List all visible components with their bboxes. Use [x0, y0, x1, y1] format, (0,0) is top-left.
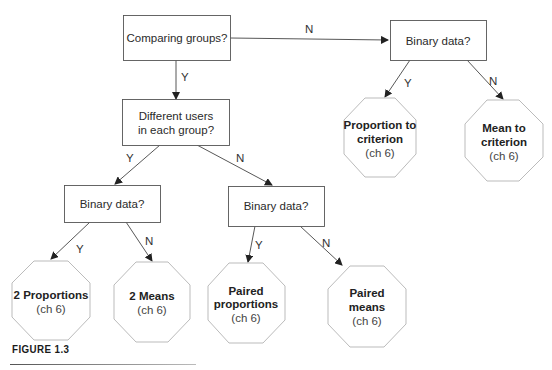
decision-binary-data-left: Binary data?	[65, 186, 161, 223]
decision-label: Binary data?	[80, 198, 145, 210]
decision-label-line2: in each group?	[138, 124, 214, 136]
outcome-chapter: (ch 6)	[36, 303, 66, 315]
edge-label-y: Y	[181, 71, 189, 83]
outcome-label: Mean to	[482, 122, 525, 134]
edge-different-to-binary-mid	[197, 145, 272, 185]
outcome-label: proportions	[214, 298, 279, 310]
outcome-proportion-to-criterion: Proportion to criterion (ch 6)	[344, 98, 417, 177]
outcome-chapter: (ch 6)	[489, 150, 519, 162]
caption-underline	[10, 364, 196, 365]
edge-label-n: N	[489, 75, 497, 87]
decision-binary-data-mid: Binary data?	[229, 187, 325, 227]
edge-binary-mid-to-paired-means	[300, 226, 342, 265]
outcome-label: criterion	[357, 133, 403, 145]
edge-different-to-binary-left	[115, 145, 160, 184]
outcome-label: criterion	[481, 136, 527, 148]
edge-label-y: Y	[76, 243, 84, 255]
edge-comparing-to-binary-top	[230, 38, 388, 40]
outcome-mean-to-criterion: Mean to criterion (ch 6)	[465, 100, 543, 181]
edge-binary-mid-to-paired-props	[248, 226, 255, 262]
outcome-chapter: (ch 6)	[231, 312, 261, 324]
decision-label-line1: Different users	[139, 110, 214, 122]
outcome-label: Paired	[349, 287, 384, 299]
outcome-paired-proportions: Paired proportions (ch 6)	[208, 263, 285, 343]
decision-different-users: Different users in each group?	[123, 100, 230, 146]
outcome-chapter: (ch 6)	[137, 304, 167, 316]
edge-label-y: Y	[255, 239, 263, 251]
decision-binary-data-top: Binary data?	[391, 21, 487, 61]
decision-label: Binary data?	[244, 200, 309, 212]
outcome-label: means	[349, 301, 385, 313]
outcome-label: Paired	[228, 285, 263, 297]
outcome-chapter: (ch 6)	[365, 147, 395, 159]
decision-comparing-groups: Comparing groups?	[124, 16, 231, 61]
outcome-paired-means: Paired means (ch 6)	[328, 266, 406, 347]
decision-label: Binary data?	[406, 35, 471, 47]
outcome-label: 2 Proportions	[14, 289, 89, 301]
edge-binary-left-to-two-props	[51, 222, 90, 259]
edge-binary-top-to-mean	[467, 60, 503, 99]
outcome-label: Proportion to	[344, 119, 417, 131]
figure-caption: FIGURE 1.3	[12, 343, 69, 355]
edge-label-n: N	[305, 23, 313, 35]
edge-label-n: N	[236, 152, 244, 164]
decision-tree-diagram: N Y Y N Y N Y N Y N Comparing groups? Bi…	[0, 0, 552, 370]
edge-label-y: Y	[404, 77, 412, 89]
decision-label: Comparing groups?	[126, 32, 227, 44]
outcome-two-means: 2 Means (ch 6)	[114, 262, 190, 342]
outcome-two-proportions: 2 Proportions (ch 6)	[12, 261, 90, 340]
edge-label-n: N	[145, 235, 153, 247]
edge-label-n: N	[322, 237, 330, 249]
outcome-chapter: (ch 6)	[352, 315, 382, 327]
outcome-label: 2 Means	[129, 290, 174, 302]
edge-label-y: Y	[126, 152, 134, 164]
